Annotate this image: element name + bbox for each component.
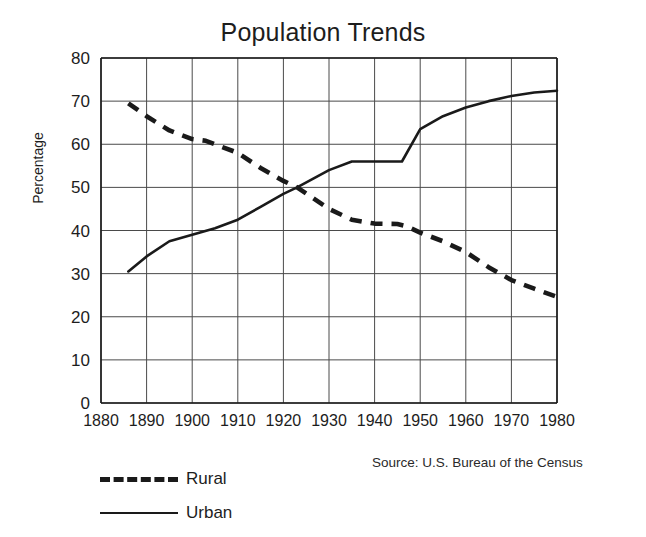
y-tick-label: 10 [71,351,90,370]
x-tick-label: 1960 [448,412,484,429]
x-tick-label: 1940 [357,412,393,429]
y-tick-label: 40 [71,222,90,241]
source-note: Source: U.S. Bureau of the Census [372,455,583,470]
x-tick-label: 1950 [402,412,438,429]
legend-item-urban[interactable]: Urban [100,496,360,530]
x-tick-label: 1900 [174,412,210,429]
legend-swatch-solid-icon [100,507,178,519]
x-tick-label: 1890 [129,412,165,429]
y-tick-label: 0 [81,394,90,413]
x-tick-label: 1980 [539,412,575,429]
x-tick-label: 1910 [220,412,256,429]
y-tick-label: 70 [71,92,90,111]
y-tick-label: 60 [71,135,90,154]
legend-item-rural[interactable]: Rural [100,462,360,496]
x-tick-label: 1930 [311,412,347,429]
legend-label-urban: Urban [186,503,232,523]
legend-label-rural: Rural [186,469,227,489]
y-tick-label: 30 [71,265,90,284]
legend: Rural Urban [100,462,360,530]
x-tick-label: 1970 [494,412,530,429]
y-tick-label: 50 [71,178,90,197]
x-tick-label: 1920 [266,412,302,429]
grid-layer [101,58,557,403]
x-axis-tick-labels: 1880189019001910192019301940195019601970… [83,412,575,429]
y-tick-label: 20 [71,308,90,327]
legend-swatch-dashed-icon [100,473,178,485]
y-axis-tick-labels: 01020304050607080 [71,49,90,413]
x-tick-label: 1880 [83,412,119,429]
population-trends-chart: Population Trends Percentage 01020304050… [0,0,646,537]
y-tick-label: 80 [71,49,90,68]
